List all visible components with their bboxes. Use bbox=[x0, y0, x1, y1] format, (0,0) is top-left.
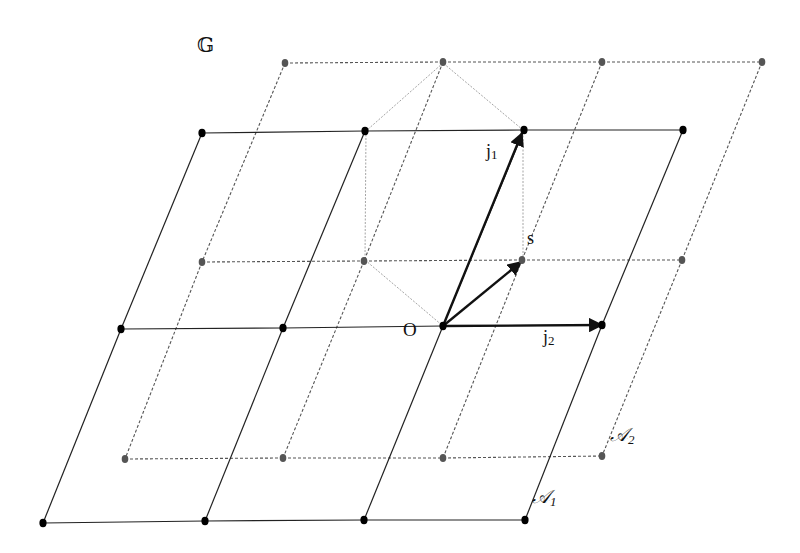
lattice-a1-v-edge bbox=[121, 133, 202, 329]
hexagon-edge bbox=[365, 131, 366, 260]
lattice-a1-h-edge bbox=[365, 130, 524, 131]
lattice-a2-v-edge bbox=[682, 62, 762, 260]
lattice-a1-h-edge bbox=[121, 328, 283, 329]
lattice-a1-point bbox=[279, 324, 286, 332]
hexagon-cell bbox=[365, 63, 523, 326]
lattice-a2-h-edge bbox=[285, 62, 443, 63]
hexagon-edge bbox=[443, 63, 523, 130]
vector-j2-arrow bbox=[443, 325, 602, 326]
lattice-a1-point bbox=[521, 516, 528, 524]
lattice-a1-point bbox=[520, 126, 527, 134]
lattice-a2-point bbox=[280, 454, 287, 462]
j1-label: j1 bbox=[485, 141, 498, 162]
lattice-points bbox=[39, 58, 765, 527]
lattice-a2-point bbox=[599, 58, 606, 66]
vector-s-arrow bbox=[443, 262, 521, 326]
lattice-a1-point bbox=[201, 517, 208, 525]
lattice-a1-v-edge bbox=[283, 131, 365, 328]
lattice-a2-point bbox=[440, 454, 447, 462]
lattice-a2-point bbox=[122, 455, 129, 463]
lattice-a2-point bbox=[440, 58, 447, 66]
origin-label: O bbox=[403, 319, 417, 340]
lattice-a2-point bbox=[679, 256, 686, 264]
diagram-svg: 𝔾 O j1 j2 s 𝒜2 𝒜1 bbox=[0, 0, 800, 553]
lattice-a1-v-edge bbox=[602, 130, 683, 325]
lattice-a1-point bbox=[361, 127, 368, 135]
lattice-a2-point bbox=[519, 256, 526, 264]
s-label: s bbox=[527, 228, 534, 248]
lattice-a2-v-edge bbox=[443, 260, 522, 458]
hexagon-edge bbox=[365, 260, 443, 326]
lattice-a1-h-edge bbox=[202, 131, 365, 133]
basis-vectors bbox=[443, 133, 602, 326]
group-label: 𝔾 bbox=[197, 34, 214, 56]
lattice-a2-point bbox=[361, 257, 368, 265]
lattice-a2-point bbox=[599, 452, 606, 460]
lattice-a2-h-edge bbox=[125, 458, 283, 459]
hexagon-edge bbox=[366, 63, 443, 131]
lattice-a1-v-edge bbox=[205, 328, 283, 521]
lattice-a1 bbox=[43, 130, 683, 523]
vector-j1-arrow bbox=[443, 133, 522, 326]
lattice-a1-v-edge bbox=[364, 326, 443, 520]
j2-label: j2 bbox=[542, 327, 555, 348]
lattice-a2-label: 𝒜2 bbox=[610, 424, 635, 447]
lattice-a2-v-edge bbox=[202, 63, 285, 262]
lattice-a1-point bbox=[439, 322, 446, 330]
lattice-a1-label: 𝒜1 bbox=[532, 486, 557, 509]
lattice-a2-h-edge bbox=[202, 261, 364, 262]
lattice-a1-h-edge bbox=[43, 521, 205, 523]
lattice-a1-h-edge bbox=[283, 326, 443, 328]
lattice-a1-point bbox=[360, 516, 367, 524]
lattice-a1-v-edge bbox=[43, 329, 121, 523]
lattice-a2-point bbox=[759, 58, 766, 66]
lattice-a2-point bbox=[199, 258, 206, 266]
lattice-a1-point bbox=[679, 126, 686, 134]
lattice-a2-point bbox=[282, 59, 289, 67]
lattice-diagram: 𝔾 O j1 j2 s 𝒜2 𝒜1 bbox=[0, 0, 800, 553]
lattice-a2-v-edge bbox=[364, 62, 443, 261]
lattice-a1-point bbox=[598, 321, 605, 329]
lattice-a1-point bbox=[39, 519, 46, 527]
lattice-a1-h-edge bbox=[205, 520, 364, 521]
lattice-a2 bbox=[125, 62, 762, 459]
lattice-a2-h-edge bbox=[364, 260, 522, 261]
lattice-a1-point bbox=[117, 325, 124, 333]
lattice-a1-point bbox=[198, 129, 205, 137]
lattice-a2-h-edge bbox=[443, 456, 602, 458]
lattice-a2-v-edge bbox=[283, 261, 364, 458]
